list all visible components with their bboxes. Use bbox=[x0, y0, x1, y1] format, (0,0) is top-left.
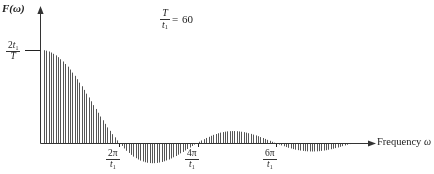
x-tick-label-1: 2π t1 bbox=[106, 149, 120, 170]
tick3-denominator: t1 bbox=[263, 160, 277, 170]
x-tick-label-3: 6π t1 bbox=[263, 149, 277, 170]
x-axis-label-symbol: ω bbox=[424, 136, 431, 147]
fourier-spectrum-figure: F(ω) 2t1 T T t1 =60 2π t1 4π t1 6π t1 Fr… bbox=[0, 0, 434, 174]
tick3-den-sub: 1 bbox=[270, 164, 273, 170]
y-axis-value-label: 2t1 T bbox=[6, 41, 20, 62]
tick2-den-sub: 1 bbox=[192, 164, 195, 170]
ratio-annotation: T t1 =60 bbox=[160, 8, 195, 30]
tick2-denominator: t1 bbox=[185, 160, 199, 170]
ratio-operator: = bbox=[172, 13, 178, 25]
tick1-denominator: t1 bbox=[106, 160, 120, 170]
x-axis-label: Frequency ω bbox=[377, 137, 431, 148]
peak-value-denominator: T bbox=[6, 52, 20, 62]
peak-num-sub: 1 bbox=[15, 45, 18, 51]
tick1-fraction: 2π t1 bbox=[106, 149, 120, 170]
ratio-value: 60 bbox=[182, 13, 193, 25]
tick3-fraction: 6π t1 bbox=[263, 149, 277, 170]
y-axis-label: F(ω) bbox=[2, 3, 25, 14]
peak-value-fraction: 2t1 T bbox=[6, 41, 20, 62]
ratio-den-sub: 1 bbox=[165, 23, 168, 30]
ratio-fraction: T t1 bbox=[160, 8, 170, 30]
tick2-fraction: 4π t1 bbox=[185, 149, 199, 170]
x-axis-label-text: Frequency bbox=[377, 136, 421, 147]
spectrum-plot-canvas bbox=[0, 0, 434, 174]
tick1-den-sub: 1 bbox=[113, 164, 116, 170]
ratio-denominator: t1 bbox=[160, 20, 170, 31]
x-tick-label-2: 4π t1 bbox=[185, 149, 199, 170]
